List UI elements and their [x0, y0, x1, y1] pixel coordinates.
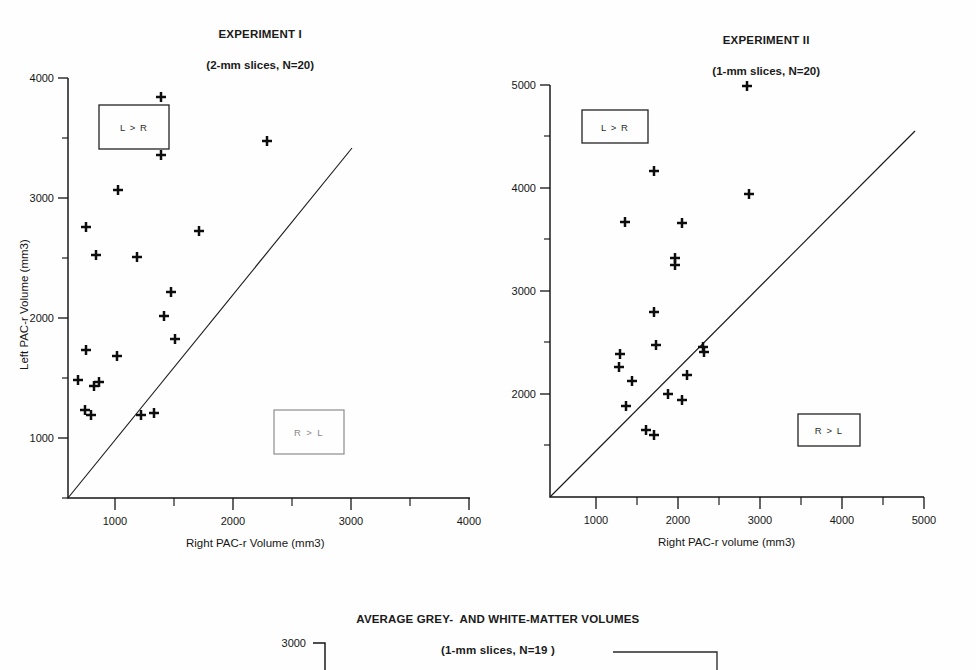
data-point [649, 307, 659, 317]
chart-1-title: EXPERIMENT I [218, 28, 302, 40]
panel-experiment-1: EXPERIMENT I (2-mm slices, N=20) [0, 0, 490, 575]
chart-1-y-axis-title: Left PAC-r Volume (mm3) [18, 239, 30, 370]
data-point [91, 250, 101, 260]
chart-1-xtick: 2000 [221, 515, 245, 527]
data-point [149, 408, 159, 418]
chart-1-ytick: 1000 [30, 432, 54, 444]
chart-2-xtick: 4000 [830, 514, 854, 526]
chart-3-legend-box-partial [613, 652, 717, 670]
data-point [670, 260, 680, 270]
chart-2-y-ticks: 5000 4000 3000 2000 [512, 79, 550, 445]
data-point [663, 389, 673, 399]
chart-2-xtick: 5000 [912, 514, 936, 526]
figure-root: EXPERIMENT I (2-mm slices, N=20) [0, 0, 976, 670]
chart-2-subtitle: (1-mm slices, N=20) [712, 65, 820, 77]
chart-1-subtitle: (2-mm slices, N=20) [206, 59, 314, 71]
chart-1-annotation-l-gt-r: L > R [99, 105, 169, 149]
data-point [80, 405, 90, 415]
data-point [132, 252, 142, 262]
data-point [677, 218, 687, 228]
chart-1-annotation-l-gt-r-text: L > R [120, 122, 148, 133]
chart-1-identity-line [68, 148, 352, 498]
data-point [159, 311, 169, 321]
chart-2-title: EXPERIMENT II [723, 34, 810, 46]
chart-3-ytick: 3000 [282, 637, 306, 649]
chart-2-x-axis-title: Right PAC-r volume (mm3) [658, 536, 795, 548]
data-point [166, 287, 176, 297]
chart-1-ytick: 3000 [30, 192, 54, 204]
chart-2-data-points [614, 81, 754, 440]
data-point [627, 376, 637, 386]
data-point [81, 345, 91, 355]
chart-1-annotation-r-gt-l-text: R > L [294, 427, 324, 438]
chart-1-ytick: 2000 [30, 312, 54, 324]
chart-1-xtick: 3000 [339, 515, 363, 527]
data-point [170, 334, 180, 344]
data-point [744, 189, 754, 199]
data-point [621, 401, 631, 411]
chart-1-data-points [73, 92, 272, 420]
data-point [81, 222, 91, 232]
data-point [614, 362, 624, 372]
data-point [194, 226, 204, 236]
chart-2-annotation-r-gt-l: R > L [798, 414, 860, 446]
chart-2-xtick: 2000 [666, 514, 690, 526]
chart-1-ytick: 4000 [30, 72, 54, 84]
data-point [649, 166, 659, 176]
data-point [112, 351, 122, 361]
chart-3-y-axis-stub [313, 643, 325, 670]
chart-2-ytick: 2000 [512, 388, 536, 400]
data-point [649, 430, 659, 440]
data-point [262, 136, 272, 146]
chart-2-x-ticks: 1000 2000 3000 4000 5000 [584, 497, 936, 526]
data-point [156, 92, 166, 102]
data-point [641, 425, 651, 435]
chart-2-ytick: 5000 [512, 79, 536, 91]
chart-2-annotation-l-gt-r: L > R [582, 110, 648, 143]
data-point [699, 347, 709, 357]
chart-2-xtick: 3000 [748, 514, 772, 526]
data-point [73, 375, 83, 385]
data-point [113, 185, 123, 195]
chart-1-title-block: EXPERIMENT I (2-mm slices, N=20) [120, 12, 380, 88]
chart-2-xtick: 1000 [584, 514, 608, 526]
chart-2-ytick: 4000 [512, 182, 536, 194]
chart-1-xtick: 1000 [103, 515, 127, 527]
chart-1-xtick: 4000 [457, 515, 481, 527]
chart-2-annotation-l-gt-r-text: L > R [601, 122, 629, 133]
data-point [677, 395, 687, 405]
chart-1-y-ticks: 4000 3000 2000 1000 [30, 72, 68, 498]
data-point [86, 410, 96, 420]
chart-2-ytick: 3000 [512, 285, 536, 297]
chart-2-axes [550, 85, 924, 497]
chart-2-title-block: EXPERIMENT II (1-mm slices, N=20) [626, 18, 886, 94]
data-point [156, 150, 166, 160]
chart-1-x-axis-title: Right PAC-r Volume (mm3) [186, 537, 324, 549]
chart-2-annotation-r-gt-l-text: R > L [815, 425, 843, 436]
data-point [651, 340, 661, 350]
panel-average-volumes: AVERAGE GREY- AND WHITE-MATTER VOLUMES (… [0, 596, 976, 670]
data-point [620, 217, 630, 227]
chart-3-plot-area: 3000 [0, 630, 976, 670]
chart-3-title: AVERAGE GREY- AND WHITE-MATTER VOLUMES [356, 613, 639, 625]
panel-experiment-2: EXPERIMENT II (1-mm slices, N=20) [486, 0, 976, 575]
data-point [615, 349, 625, 359]
data-point [682, 370, 692, 380]
chart-1-annotation-r-gt-l: R > L [274, 410, 344, 454]
chart-1-x-ticks: 1000 2000 3000 4000 [103, 498, 481, 527]
